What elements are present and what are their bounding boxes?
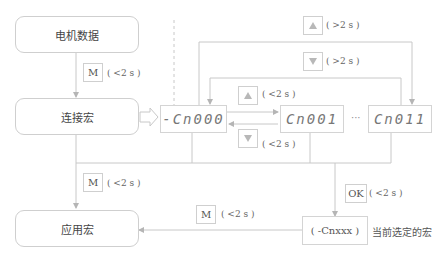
up-long-duration: ( >2 s ) xyxy=(326,20,360,30)
display-cn001: Cn001 xyxy=(280,105,344,133)
selected-macro-box: ( -Cnxxx ) xyxy=(302,216,368,245)
m-left-duration: ( <2 s ) xyxy=(107,178,141,188)
display-cn011-text: Cn011 xyxy=(374,111,426,127)
m-key[interactable]: M xyxy=(83,173,103,192)
up-key-long[interactable] xyxy=(303,16,323,35)
up-short-duration: ( <2 s ) xyxy=(262,89,296,99)
up-key-short[interactable] xyxy=(238,86,258,105)
motor-data-box: 电机数据 xyxy=(15,16,139,53)
down-arrow-icon xyxy=(309,58,317,65)
m-key-label: M xyxy=(88,67,98,78)
down-short-duration: ( <2 s ) xyxy=(262,139,296,149)
m-key-label: M xyxy=(201,209,211,220)
motor-data-label: 电机数据 xyxy=(55,27,99,43)
ok-duration: ( <2 s ) xyxy=(369,188,403,198)
display-cn001-text: Cn001 xyxy=(286,111,338,127)
selected-macro-note: 当前选定的宏 xyxy=(372,224,432,239)
m-key[interactable]: M xyxy=(196,205,216,224)
ellipsis: ··· xyxy=(351,112,361,123)
down-key-long[interactable] xyxy=(303,52,323,71)
ok-key[interactable]: OK xyxy=(345,184,367,203)
down-key-short[interactable] xyxy=(238,129,258,148)
connection-macro-box: 连接宏 xyxy=(15,98,139,135)
display-cn000: -Cn000 xyxy=(160,105,227,133)
down-arrow-icon xyxy=(244,135,252,142)
display-cn011: Cn011 xyxy=(368,105,432,133)
application-macro-box: 应用宏 xyxy=(15,210,139,247)
up-arrow-icon xyxy=(244,92,252,99)
ok-key-label: OK xyxy=(348,188,364,199)
m-top-duration: ( <2 s ) xyxy=(107,68,141,78)
selected-macro-label: ( -Cnxxx ) xyxy=(311,225,360,236)
connection-macro-label: 连接宏 xyxy=(61,109,94,125)
m-key[interactable]: M xyxy=(83,63,103,82)
up-arrow-icon xyxy=(309,22,317,29)
m-key-label: M xyxy=(88,177,98,188)
application-macro-label: 应用宏 xyxy=(61,221,94,237)
display-cn000-text: -Cn000 xyxy=(162,111,225,127)
down-long-duration: ( >2 s ) xyxy=(326,56,360,66)
m-bottom-duration: ( <2 s ) xyxy=(221,209,255,219)
